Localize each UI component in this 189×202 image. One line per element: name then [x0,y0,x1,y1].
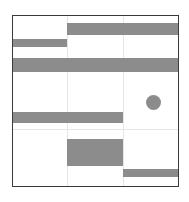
top-right-bar [67,23,179,35]
top-left-bar [12,39,67,47]
center-block [67,139,123,166]
bottom-right-bar [123,169,179,177]
chart-canvas [0,0,189,202]
horizontal-gridline [12,129,179,130]
full-width-bar [12,58,179,72]
dot-marker [146,95,161,110]
middle-left-bar [12,112,123,123]
